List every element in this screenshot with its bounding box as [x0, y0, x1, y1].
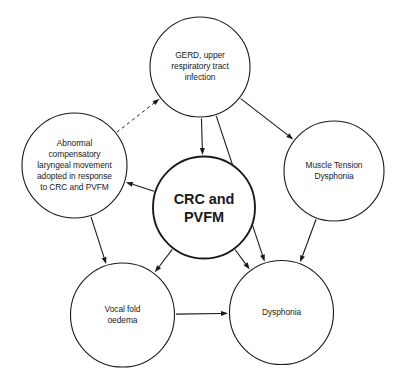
edge-crc-to-dysphonia	[235, 250, 250, 270]
edge-line	[241, 99, 288, 136]
edge-line	[235, 250, 245, 264]
arrow-head-icon	[200, 148, 205, 155]
node-layer	[22, 17, 384, 367]
node-circle-abnormal[interactable]	[22, 113, 127, 218]
node-circle-muscle-tension[interactable]	[284, 121, 384, 221]
edge-gerd-to-muscle-tension	[241, 99, 294, 140]
diagram-svg	[0, 0, 402, 383]
arrow-head-icon	[152, 99, 159, 105]
node-circle-dysphonia[interactable]	[230, 261, 334, 365]
edge-muscle-tension-to-dysphonia	[300, 219, 316, 262]
arrow-head-icon	[260, 254, 265, 261]
edge-line	[91, 217, 104, 257]
edge-line	[159, 249, 172, 266]
edge-abnormal-to-gerd	[117, 99, 160, 132]
arrow-head-icon	[102, 257, 107, 264]
node-circle-vocal-fold[interactable]	[71, 263, 175, 367]
edge-crc-to-vocal-fold	[155, 249, 172, 272]
arrow-head-icon	[221, 311, 228, 316]
arrow-head-icon	[155, 265, 161, 272]
edge-gerd-to-crc	[200, 118, 205, 155]
edge-line	[117, 103, 154, 132]
edge-line	[133, 184, 155, 191]
edge-abnormal-to-vocal-fold	[91, 217, 106, 264]
edge-vocal-fold-to-dysphonia	[176, 311, 228, 316]
arrow-head-icon	[126, 182, 133, 187]
diagram-canvas: GERD, upper respiratory tract infectionA…	[0, 0, 402, 383]
edge-line	[176, 313, 221, 314]
edge-line	[201, 118, 202, 148]
arrow-head-icon	[300, 255, 305, 262]
edge-line	[303, 219, 317, 256]
edge-crc-to-abnormal	[126, 182, 154, 191]
node-circle-crc-pvfm[interactable]	[153, 157, 255, 259]
node-circle-gerd[interactable]	[150, 17, 250, 117]
arrow-head-icon	[244, 262, 250, 269]
